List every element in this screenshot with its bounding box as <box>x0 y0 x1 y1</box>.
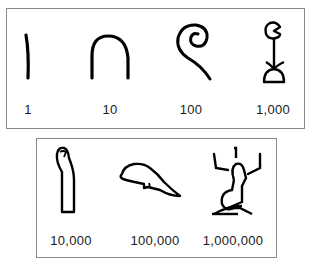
numeral-label: 100 <box>180 102 203 117</box>
heel-bone-icon <box>88 34 132 82</box>
heh-god-icon <box>208 146 268 218</box>
coiled-rope-icon <box>174 22 218 82</box>
numeral-label: 10,000 <box>50 233 92 248</box>
finger-icon <box>54 146 78 216</box>
tadpole-icon <box>116 162 182 202</box>
numeral-label: 1 <box>24 102 32 117</box>
numeral-label: 100,000 <box>130 233 179 248</box>
numeral-label: 10 <box>102 102 117 117</box>
numeral-label: 1,000 <box>256 102 290 117</box>
lotus-plant-icon <box>260 18 290 86</box>
numeral-label: 1,000,000 <box>203 233 264 248</box>
stroke-icon <box>22 32 34 82</box>
